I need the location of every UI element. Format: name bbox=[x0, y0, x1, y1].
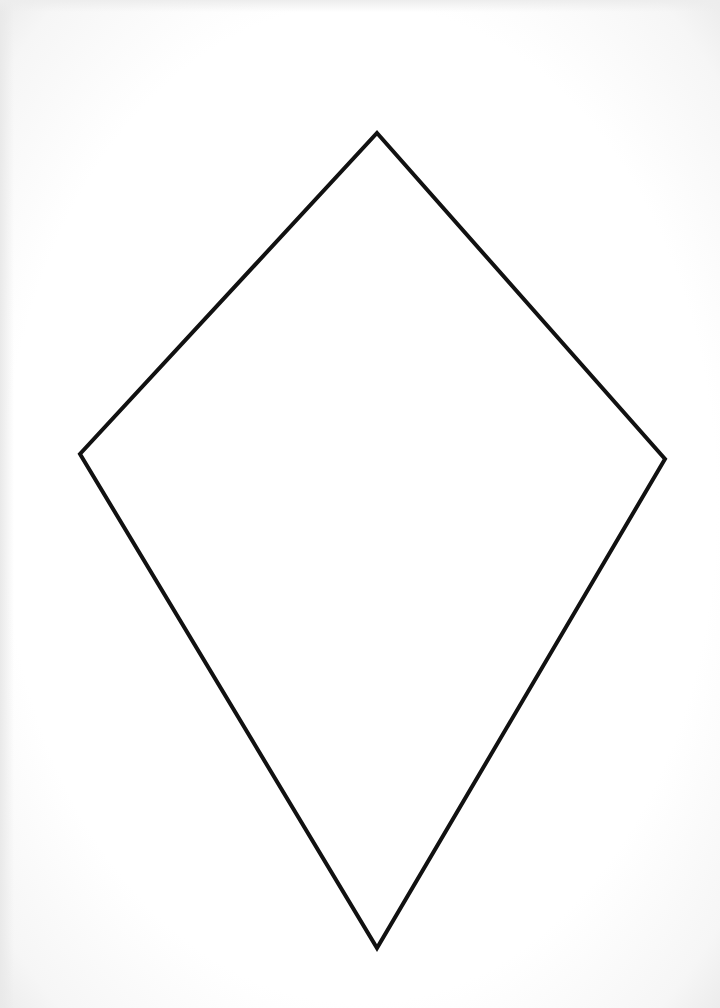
kite-drawing-canvas bbox=[0, 0, 720, 1008]
worksheet-page bbox=[0, 0, 720, 1008]
kite-outline-shape bbox=[80, 133, 665, 948]
